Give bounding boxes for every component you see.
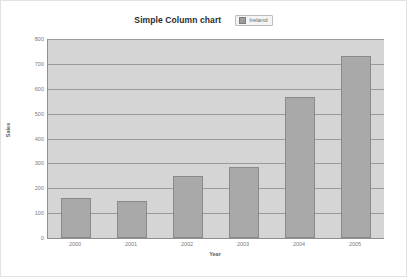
y-axis-tick-label: 200 [35,185,44,191]
bar[interactable] [117,201,147,238]
y-axis-tick-label: 700 [35,61,44,67]
y-axis-tick-label: 500 [35,111,44,117]
bar-slot [216,39,272,238]
legend-item-label: Ireland [249,17,267,23]
bar-slot [328,39,384,238]
bar[interactable] [341,56,371,238]
chart-header: Simple Column chart Ireland [1,12,406,28]
chart-frame: Simple Column chart Ireland Sales 010020… [0,0,407,277]
chart-legend[interactable]: Ireland [235,15,272,26]
x-axis-tick-label: 2000 [47,241,103,247]
y-axis-tick-label: 800 [35,36,44,42]
x-axis-tick-label: 2001 [103,241,159,247]
x-axis-tick-label: 2005 [327,241,383,247]
x-axis-title: Year [47,251,383,257]
legend-swatch-icon [239,17,246,24]
x-axis-ticks: 200020012002200320042005 [47,241,383,247]
x-axis-tick-label: 2002 [159,241,215,247]
y-axis-tick-label: 0 [41,235,44,241]
x-axis-tick-label: 2003 [215,241,271,247]
y-axis-tick-label: 100 [35,210,44,216]
y-axis-tick-label: 300 [35,160,44,166]
bar-slot [104,39,160,238]
x-axis-tick-label: 2004 [271,241,327,247]
y-axis-tick-label: 400 [35,136,44,142]
bar[interactable] [173,176,203,238]
bar[interactable] [61,198,91,238]
y-axis-ticks: 0100200300400500600700800 [21,39,44,238]
plot-area [47,39,384,239]
bar-slot [272,39,328,238]
bar[interactable] [285,97,315,238]
y-axis-title: Sales [5,115,11,145]
bar-slot [48,39,104,238]
bar-slot [160,39,216,238]
bar[interactable] [229,167,259,238]
y-axis-tick-label: 600 [35,86,44,92]
chart-title: Simple Column chart [134,15,221,25]
bars-layer [48,39,384,238]
